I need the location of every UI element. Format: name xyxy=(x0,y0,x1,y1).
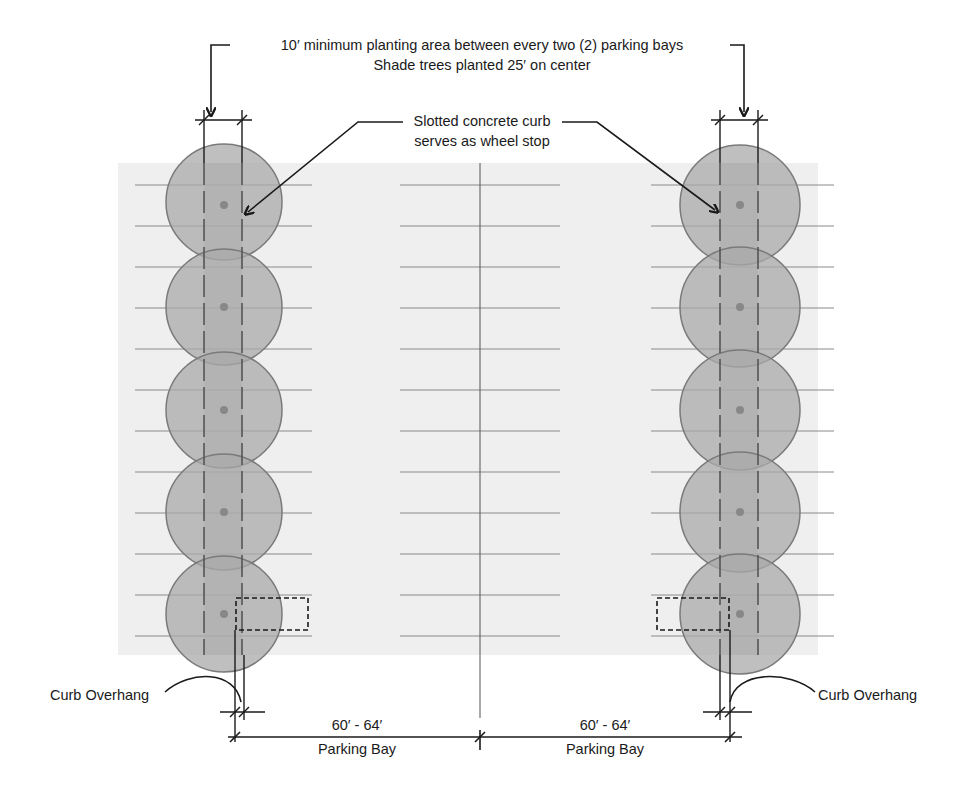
bay-label-right: Parking Bay xyxy=(566,741,645,757)
curb-overhang-label-right: Curb Overhang xyxy=(818,687,917,703)
parking-lot-diagram: 10′ minimum planting area between every … xyxy=(0,0,967,801)
bay-label-left: Parking Bay xyxy=(318,741,397,757)
curb-overhang-leader-right xyxy=(730,677,815,702)
curb-overhang-leader-left xyxy=(165,677,241,702)
bay-dimension-right: 60′ - 64′ xyxy=(580,717,631,733)
title-line-1: 10′ minimum planting area between every … xyxy=(281,37,683,53)
bay-dimension-left: 60′ - 64′ xyxy=(332,717,383,733)
title-leader-left xyxy=(211,45,230,112)
title-line-2: Shade trees planted 25′ on center xyxy=(373,57,590,73)
curb-overhang-label-left: Curb Overhang xyxy=(50,687,149,703)
curb-callout-line-1: Slotted concrete curb xyxy=(413,113,550,129)
title-leader-right xyxy=(730,45,744,112)
curb-callout-line-2: serves as wheel stop xyxy=(414,133,549,149)
parking-bay-dimension-line xyxy=(228,730,742,750)
